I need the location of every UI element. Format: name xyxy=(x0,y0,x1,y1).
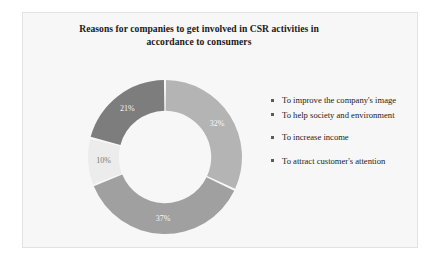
legend-item[interactable]: To help society and environment xyxy=(271,110,416,121)
donut-slice[interactable] xyxy=(94,175,234,234)
donut-slice-label: 21% xyxy=(113,104,141,113)
donut-chart: 32%37%10%21% xyxy=(76,71,254,243)
chart-title-line-1: Reasons for companies to get involved in… xyxy=(49,23,349,36)
legend-marker-icon xyxy=(271,159,274,162)
donut-slice-label: 32% xyxy=(203,119,231,128)
chart-title: Reasons for companies to get involved in… xyxy=(49,23,349,48)
legend-item[interactable]: To increase income xyxy=(271,132,416,143)
legend-marker-icon xyxy=(271,99,274,102)
legend-item[interactable]: To improve the company's image xyxy=(271,95,416,106)
legend-item[interactable]: To attract customer's attention xyxy=(271,156,416,167)
chart-figure: Reasons for companies to get involved in… xyxy=(22,12,418,248)
legend-item-label: To attract customer's attention xyxy=(282,156,416,167)
legend-item-label: To increase income xyxy=(282,132,416,143)
legend-item-label: To improve the company's image xyxy=(282,95,416,106)
donut-slice[interactable] xyxy=(166,80,242,189)
donut-slice-label: 37% xyxy=(149,214,177,223)
chart-title-line-2: accordance to consumers xyxy=(49,36,349,49)
donut-slice-label: 10% xyxy=(90,156,118,165)
legend-marker-icon xyxy=(271,113,274,116)
chart-legend: To improve the company's image To help s… xyxy=(271,95,416,166)
legend-item-label: To help society and environment xyxy=(282,110,416,121)
legend-marker-icon xyxy=(271,136,274,139)
